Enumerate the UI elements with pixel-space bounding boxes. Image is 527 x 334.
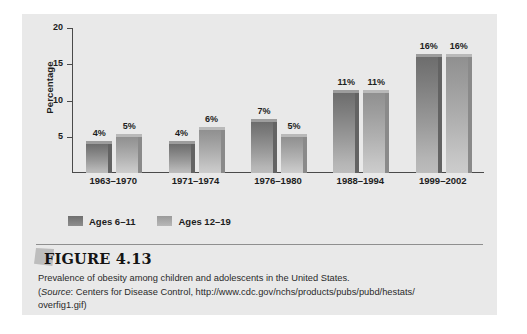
- bar-side-face: [108, 144, 112, 173]
- bar-front-face: [333, 93, 355, 173]
- bar-front-face: [446, 57, 468, 173]
- legend-item[interactable]: Ages 12–19: [157, 216, 230, 227]
- legend-label: Ages 12–19: [178, 216, 230, 227]
- legend-swatch-icon: [68, 216, 83, 226]
- bar-front-face: [169, 144, 191, 173]
- chart-legend: Ages 6–11Ages 12–19: [68, 214, 253, 228]
- x-axis-label: 1963–1970: [72, 175, 154, 186]
- bar-front-face: [416, 57, 438, 173]
- bar-front-face: [363, 93, 385, 173]
- figure-title: FIGURE 4.13: [44, 250, 152, 267]
- bar-side-face: [191, 144, 195, 173]
- bar-value-label: 11%: [338, 77, 356, 87]
- source-label: Source: [41, 287, 70, 297]
- bar[interactable]: 4%: [169, 141, 195, 173]
- x-axis-labels: 1963–19701971–19741976–19801988–19941999…: [72, 175, 484, 191]
- y-tick: 10: [67, 101, 72, 102]
- bar-value-label: 7%: [257, 106, 270, 116]
- bar-side-face: [303, 137, 307, 173]
- legend-swatch-icon: [157, 216, 172, 226]
- bar[interactable]: 6%: [199, 127, 225, 174]
- y-tick: 20: [67, 28, 72, 29]
- bar-top-face: [446, 54, 472, 57]
- bar[interactable]: 11%: [333, 90, 359, 173]
- bar-top-face: [363, 90, 389, 93]
- caption-source-line-2: overfig1.gif): [38, 299, 478, 313]
- y-tick: 5: [67, 137, 72, 138]
- bar-top-face: [281, 134, 307, 137]
- bar-group: 4%5%: [73, 28, 155, 173]
- bar-side-face: [438, 57, 442, 173]
- bar-front-face: [116, 137, 138, 173]
- bar-top-face: [169, 141, 195, 144]
- x-axis-label: 1999–2002: [402, 175, 484, 186]
- bar-top-face: [199, 127, 225, 130]
- bar-value-label: 16%: [420, 41, 438, 51]
- bar[interactable]: 5%: [116, 134, 142, 173]
- legend-item[interactable]: Ages 6–11: [68, 216, 135, 227]
- bar[interactable]: 16%: [446, 54, 472, 173]
- x-axis-label: 1988–1994: [319, 175, 401, 186]
- bar-top-face: [416, 54, 442, 57]
- x-axis-label: 1971–1974: [154, 175, 236, 186]
- figure-panel: Percentage 5101520 4%5%4%6%7%5%11%11%16%…: [22, 14, 497, 315]
- bar-group: 7%5%: [238, 28, 320, 173]
- y-tick: 15: [67, 64, 72, 65]
- bar-value-label: 5%: [123, 121, 136, 131]
- y-tick-label: 5: [58, 131, 63, 141]
- bar-value-label: 4%: [175, 128, 188, 138]
- source-text: : Centers for Disease Control, http://ww…: [71, 287, 415, 297]
- y-tick-label: 10: [53, 95, 63, 105]
- y-tick-label: 20: [53, 22, 63, 32]
- caption-line-1: Prevalence of obesity among children and…: [38, 272, 478, 286]
- bar[interactable]: 16%: [416, 54, 442, 173]
- bar[interactable]: 5%: [281, 134, 307, 173]
- bar-side-face: [385, 93, 389, 173]
- bar-top-face: [251, 119, 277, 122]
- bar[interactable]: 11%: [363, 90, 389, 173]
- bar-side-face: [273, 122, 277, 173]
- bar-group: 4%6%: [155, 28, 237, 173]
- bar-value-label: 11%: [368, 77, 386, 87]
- bar-front-face: [251, 122, 273, 173]
- bar-value-label: 5%: [287, 121, 300, 131]
- bar-side-face: [138, 137, 142, 173]
- bar-side-face: [355, 93, 359, 173]
- bars-layer: 4%5%4%6%7%5%11%11%16%16%: [73, 28, 484, 173]
- figure-caption: Prevalence of obesity among children and…: [38, 272, 478, 313]
- bar[interactable]: 4%: [86, 141, 112, 173]
- bar-top-face: [333, 90, 359, 93]
- plot-area: 5101520 4%5%4%6%7%5%11%11%16%16%: [72, 28, 484, 173]
- legend-label: Ages 6–11: [89, 216, 135, 227]
- bar-chart: Percentage 5101520 4%5%4%6%7%5%11%11%16%…: [22, 14, 497, 210]
- bar[interactable]: 7%: [251, 119, 277, 173]
- caption-divider: [36, 244, 483, 245]
- bar-side-face: [221, 130, 225, 174]
- caption-source-line: (Source: Centers for Disease Control, ht…: [38, 286, 478, 300]
- bar-value-label: 4%: [93, 128, 106, 138]
- y-tick-label: 15: [53, 58, 63, 68]
- bar-group: 11%11%: [320, 28, 402, 173]
- bar-side-face: [468, 57, 472, 173]
- bar-top-face: [116, 134, 142, 137]
- bar-front-face: [281, 137, 303, 173]
- bar-front-face: [86, 144, 108, 173]
- x-axis-label: 1976–1980: [237, 175, 319, 186]
- bar-group: 16%16%: [403, 28, 485, 173]
- bar-value-label: 6%: [205, 114, 218, 124]
- bar-top-face: [86, 141, 112, 144]
- bar-value-label: 16%: [450, 41, 468, 51]
- bar-front-face: [199, 130, 221, 174]
